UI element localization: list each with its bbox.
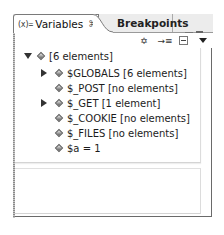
- view-toolbar: ✡ →≡: [15, 33, 212, 48]
- tab-breakpoints[interactable]: Breakpoints: [113, 14, 173, 32]
- collapse-all-icon: [179, 36, 188, 45]
- tree-row-label: [6 elements]: [49, 51, 113, 62]
- tree-row-post[interactable]: $_POST [no elements]: [56, 81, 178, 95]
- tree-row-cookie[interactable]: $_COOKIE [no elements]: [56, 111, 190, 125]
- tree-row-label: $_COOKIE [no elements]: [67, 113, 190, 124]
- logical-structure-icon[interactable]: →≡: [158, 35, 172, 46]
- tree-row-label: $_GET [1 element]: [67, 98, 160, 109]
- variable-icon: [55, 144, 63, 152]
- collapsed-arrow-icon[interactable]: [41, 69, 47, 77]
- tree-row-label: $_FILES [no elements]: [67, 128, 178, 139]
- tree-row-a[interactable]: $a = 1: [56, 141, 101, 155]
- tree-row-globals[interactable]: $GLOBALS [6 elements]: [41, 66, 187, 80]
- tree-row-files[interactable]: $_FILES [no elements]: [56, 126, 178, 140]
- variable-icon: [55, 84, 63, 92]
- collapse-all-button[interactable]: [178, 35, 189, 46]
- collapsed-arrow-icon[interactable]: [41, 99, 47, 107]
- tab-breakpoints-label: Breakpoints: [117, 17, 188, 29]
- variable-icon: [55, 69, 63, 77]
- show-type-names-icon[interactable]: ✡: [138, 35, 150, 46]
- tree-row-label: $_POST [no elements]: [67, 83, 178, 94]
- tree-row-root[interactable]: [6 elements]: [24, 49, 113, 63]
- expanded-arrow-icon[interactable]: [24, 53, 32, 59]
- tab-curve-decoration: [93, 14, 113, 33]
- view-tab-bar: (x)= Variables ⌘ Breakpoints: [13, 14, 213, 33]
- variable-icon: [55, 99, 63, 107]
- view-menu-button[interactable]: [198, 35, 208, 46]
- tree-row-label: $a = 1: [67, 143, 101, 154]
- variable-icon: [55, 129, 63, 137]
- view-menu-icon: [199, 38, 207, 43]
- tree-row-get[interactable]: $_GET [1 element]: [41, 96, 160, 110]
- variables-tree[interactable]: [6 elements] $GLOBALS [6 elements] $_POS…: [15, 48, 201, 163]
- variable-icon: [37, 52, 45, 60]
- tree-row-label: $GLOBALS [6 elements]: [67, 68, 187, 79]
- variable-icon: [55, 114, 63, 122]
- tab-variables-label: Variables: [35, 18, 83, 30]
- tab-variables[interactable]: (x)= Variables ⌘: [13, 14, 99, 33]
- variable-detail-pane[interactable]: [15, 168, 201, 214]
- variables-icon: (x)=: [17, 20, 32, 29]
